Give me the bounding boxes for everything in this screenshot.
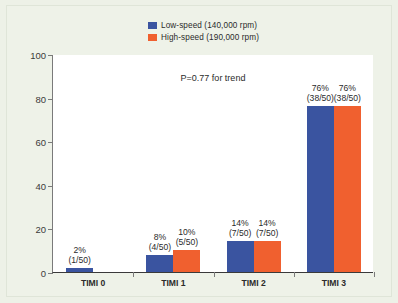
bar-high-speed — [173, 250, 200, 272]
legend-swatch-high-speed — [148, 34, 157, 41]
plot-inner: 0204060801002%(1/50)TIMI 08%(4/50)10%(5/… — [53, 55, 373, 272]
bar-low-speed — [66, 268, 93, 272]
y-axis-tick-mark — [48, 55, 53, 56]
bar-value-label: 10%(5/50) — [165, 227, 209, 247]
x-axis-separator-tick — [374, 272, 375, 277]
y-axis-tick-mark — [48, 142, 53, 143]
x-axis-separator-tick — [133, 272, 134, 277]
legend-item-low-speed: Low-speed (140,000 rpm) — [148, 20, 288, 31]
x-axis-tick-label: TIMI 1 — [161, 278, 185, 288]
bar-value-label: 14%(7/50) — [245, 218, 289, 238]
legend-swatch-low-speed — [148, 22, 157, 29]
chart-figure: Low-speed (140,000 rpm) High-speed (190,… — [0, 0, 398, 303]
y-axis-tick-label: 0 — [41, 268, 46, 279]
bar-high-speed — [334, 106, 361, 272]
y-axis-tick-label: 80 — [35, 93, 46, 104]
plot-area: P=0.77 for trend 0204060801002%(1/50)TIM… — [52, 55, 373, 273]
y-axis-tick-mark — [48, 99, 53, 100]
x-axis-tick-label: TIMI 3 — [322, 278, 346, 288]
y-axis-tick-label: 60 — [35, 137, 46, 148]
x-axis-separator-tick — [214, 272, 215, 277]
bar-high-speed — [254, 241, 281, 272]
bar-low-speed — [146, 255, 173, 272]
y-axis-tick-mark — [48, 273, 53, 274]
legend-label-high-speed: High-speed (190,000 rpm) — [161, 33, 259, 42]
y-axis-tick-mark — [48, 186, 53, 187]
x-axis-separator-tick — [294, 272, 295, 277]
bar-value-label: 76%(38/50) — [325, 83, 369, 103]
x-axis-tick-label: TIMI 2 — [241, 278, 265, 288]
y-axis-tick-label: 20 — [35, 224, 46, 235]
y-axis-tick-label: 100 — [30, 50, 46, 61]
bar-low-speed — [307, 106, 334, 272]
y-axis-tick-label: 40 — [35, 180, 46, 191]
y-axis-tick-mark — [48, 229, 53, 230]
chart-legend: Low-speed (140,000 rpm) High-speed (190,… — [148, 20, 288, 44]
bar-low-speed — [227, 241, 254, 272]
x-axis-tick-label: TIMI 0 — [81, 278, 105, 288]
legend-label-low-speed: Low-speed (140,000 rpm) — [161, 21, 257, 30]
bar-value-label: 2%(1/50) — [58, 245, 102, 265]
legend-item-high-speed: High-speed (190,000 rpm) — [148, 32, 288, 43]
